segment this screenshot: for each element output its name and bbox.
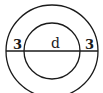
concentric-circles-diagram: 3 d 3 [0,0,103,93]
right-ring-width-label: 3 [85,37,94,52]
inner-diameter-label: d [51,35,60,51]
left-ring-width-label: 3 [13,37,22,52]
